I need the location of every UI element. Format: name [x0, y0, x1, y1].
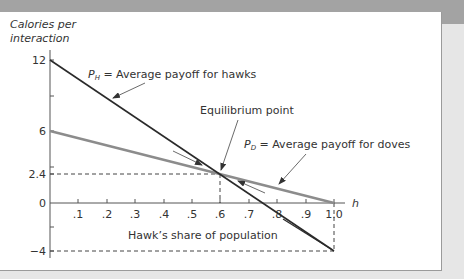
hawks-label-pointer	[113, 83, 145, 98]
y-ticks	[50, 60, 54, 251]
svg-text:.1: .1	[73, 208, 84, 221]
equilibrium-label: Equilibrium point	[200, 104, 295, 117]
svg-text:.5: .5	[187, 208, 198, 221]
svg-text:.2: .2	[102, 208, 113, 221]
hawks-line-tail	[283, 219, 331, 249]
y-tick-0: 0	[39, 197, 46, 210]
doves-label-pointer	[279, 154, 306, 184]
hawks-label: PH = Average payoff for hawks	[88, 68, 257, 82]
doves-label: PD = Average payoff for doves	[244, 138, 411, 152]
x-ticks	[78, 199, 334, 203]
svg-text:.3: .3	[130, 208, 141, 221]
x-axis-symbol: h	[352, 197, 359, 210]
svg-text:.6: .6	[215, 208, 226, 221]
hawks-payoff-line	[50, 60, 334, 251]
svg-text:.4: .4	[159, 208, 170, 221]
hawk-dove-chart: Calories per interaction h 12 6 2.4 0 −4…	[0, 0, 464, 279]
y-tick-2-4: 2.4	[29, 168, 47, 181]
y-axis-label-line2: interaction	[10, 32, 70, 45]
svg-text:.7: .7	[244, 208, 255, 221]
x-tick-labels: .1 .2 .3 .4 .5 .6 .7 .8 .9 1.0	[73, 208, 343, 221]
equilibrium-pointer	[221, 120, 238, 170]
x-axis-label: Hawk’s share of population	[128, 229, 278, 242]
svg-text:.9: .9	[301, 208, 312, 221]
y-tick-6: 6	[39, 125, 46, 138]
y-axis-label-line1: Calories per	[10, 18, 78, 31]
y-tick-12: 12	[32, 54, 46, 67]
y-tick-neg4: −4	[30, 245, 46, 258]
